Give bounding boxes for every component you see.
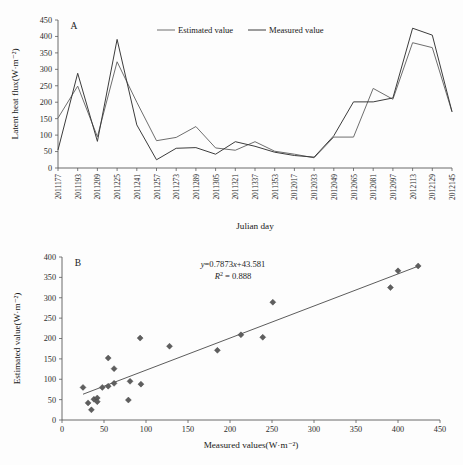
panel-a-line-chart: 0501001502002503003504004502011177201119… bbox=[0, 0, 463, 238]
panel-b-y-ticklabel: 350 bbox=[44, 273, 56, 282]
panel-a-y-ticklabel: 350 bbox=[40, 49, 52, 58]
panel-a-x-ticklabel: 2012081 bbox=[369, 174, 378, 200]
panel-a-y-ticklabel: 450 bbox=[40, 16, 52, 25]
panel-a-y-ticklabel: 150 bbox=[40, 115, 52, 124]
panel-a-y-ticklabel: 300 bbox=[40, 65, 52, 74]
panel-b-scatter-chart: 0501001502002503003504000501001502002503… bbox=[0, 235, 463, 465]
panel-b-letter: B bbox=[75, 258, 81, 268]
panel-b-data-point bbox=[415, 263, 421, 269]
panel-a-y-ticklabel: 50 bbox=[44, 147, 52, 156]
panel-a-x-ticklabel: 2011321 bbox=[231, 174, 240, 200]
panel-a-series-estimated bbox=[58, 43, 452, 158]
panel-a-x-ticklabel: 2011305 bbox=[212, 174, 221, 200]
panel-b-svg: 0501001502002503003504000501001502002503… bbox=[0, 235, 463, 465]
panel-b-data-point bbox=[138, 381, 144, 387]
panel-a-y-axis-title: Latent heat flux(W·m⁻²) bbox=[10, 49, 20, 140]
panel-a-y-ticklabel: 250 bbox=[40, 82, 52, 91]
panel-b-data-point bbox=[111, 366, 117, 372]
panel-a-x-axis-title: Julian day bbox=[236, 221, 274, 231]
panel-b-x-ticklabel: 200 bbox=[224, 425, 236, 434]
panel-b-x-ticklabel: 250 bbox=[266, 425, 278, 434]
panel-b-y-ticklabel: 200 bbox=[44, 334, 56, 343]
panel-b-y-ticklabel: 150 bbox=[44, 355, 56, 364]
panel-b-data-point bbox=[270, 299, 276, 305]
panel-a-y-ticklabel: 100 bbox=[40, 131, 52, 140]
figure-container: 0501001502002503003504004502011177201119… bbox=[0, 0, 463, 465]
panel-b-x-ticklabel: 300 bbox=[308, 425, 320, 434]
panel-b-y-ticklabel: 250 bbox=[44, 314, 56, 323]
panel-a-x-ticklabel: 2012065 bbox=[350, 174, 359, 200]
panel-a-x-ticklabel: 2011257 bbox=[153, 174, 162, 200]
panel-a-x-ticklabel: 2011337 bbox=[251, 174, 260, 200]
panel-a-legend-label-1: Measured value bbox=[269, 25, 324, 35]
panel-b-y-ticklabel: 50 bbox=[48, 396, 56, 405]
panel-b-x-ticklabel: 100 bbox=[140, 425, 152, 434]
panel-a-x-ticklabel: 2011225 bbox=[113, 174, 122, 200]
panel-a-x-ticklabel: 2011353 bbox=[271, 174, 280, 200]
panel-b-x-ticklabel: 450 bbox=[434, 425, 446, 434]
panel-b-data-point bbox=[88, 407, 94, 413]
panel-b-r-squared-label: R2 = 0.888 bbox=[214, 271, 252, 281]
panel-b-x-ticklabel: 400 bbox=[392, 425, 404, 434]
panel-b-data-point bbox=[127, 378, 133, 384]
panel-a-y-ticklabel: 200 bbox=[40, 98, 52, 107]
panel-a-legend-label-0: Estimated value bbox=[178, 25, 233, 35]
panel-b-data-point bbox=[167, 343, 173, 349]
panel-a-y-ticklabel: 0 bbox=[48, 164, 52, 173]
panel-a-x-ticklabel: 2012033 bbox=[310, 174, 319, 200]
panel-a-letter: A bbox=[71, 21, 78, 31]
panel-a-x-ticklabel: 2012049 bbox=[330, 174, 339, 200]
panel-a-series-measured bbox=[58, 28, 452, 160]
panel-a-x-ticklabel: 2012145 bbox=[448, 174, 457, 200]
panel-b-data-point bbox=[260, 334, 266, 340]
panel-a-x-ticklabel: 2011241 bbox=[133, 174, 142, 200]
panel-b-data-point bbox=[99, 384, 105, 390]
panel-a-x-ticklabel: 2012113 bbox=[409, 174, 418, 200]
panel-a-x-ticklabel: 2011273 bbox=[172, 174, 181, 200]
panel-b-data-point bbox=[125, 397, 131, 403]
panel-b-y-axis-title: Estimated value(W·m⁻²) bbox=[12, 293, 22, 385]
panel-a-x-ticklabel: 2012017 bbox=[290, 174, 299, 200]
panel-b-equation-label: y=0.7873x+43.581 bbox=[200, 259, 266, 269]
panel-a-y-ticklabel: 400 bbox=[40, 32, 52, 41]
panel-b-x-ticklabel: 50 bbox=[100, 425, 108, 434]
panel-b-data-point bbox=[105, 355, 111, 361]
panel-b-data-point bbox=[85, 400, 91, 406]
panel-a-x-ticklabel: 2012129 bbox=[428, 174, 437, 200]
panel-b-x-ticklabel: 350 bbox=[350, 425, 362, 434]
panel-b-regression-line bbox=[83, 266, 418, 394]
panel-a-x-ticklabel: 2011193 bbox=[74, 174, 83, 200]
panel-b-data-point bbox=[80, 384, 86, 390]
panel-b-y-ticklabel: 100 bbox=[44, 375, 56, 384]
panel-b-x-axis-title: Measured values(W·m⁻²) bbox=[204, 440, 299, 450]
panel-a-x-ticklabel: 2011289 bbox=[192, 174, 201, 200]
panel-b-data-point bbox=[214, 347, 220, 353]
panel-b-data-point bbox=[137, 335, 143, 341]
panel-b-y-ticklabel: 400 bbox=[44, 253, 56, 262]
panel-b-x-ticklabel: 150 bbox=[182, 425, 194, 434]
panel-a-x-ticklabel: 2011177 bbox=[54, 174, 63, 200]
panel-a-svg: 0501001502002503003504004502011177201119… bbox=[0, 0, 463, 238]
panel-b-x-ticklabel: 0 bbox=[60, 425, 64, 434]
panel-b-data-point bbox=[387, 285, 393, 291]
panel-b-y-ticklabel: 300 bbox=[44, 294, 56, 303]
panel-a-x-ticklabel: 2012097 bbox=[389, 174, 398, 200]
panel-a-x-ticklabel: 2011209 bbox=[93, 174, 102, 200]
panel-b-y-ticklabel: 0 bbox=[52, 416, 56, 425]
